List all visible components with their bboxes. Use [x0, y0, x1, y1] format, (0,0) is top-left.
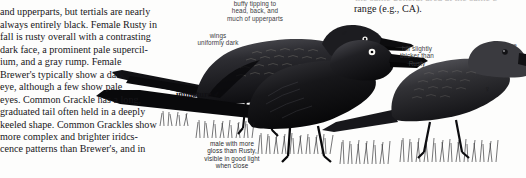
sex-symbol-female: ♀ [484, 84, 491, 94]
body-line: keeled shape. Common Grackles show [0, 119, 142, 131]
body-line: and upperparts, but tertials are nearly [0, 6, 142, 18]
body-line: dark face, a prominent pale supercil- [0, 44, 142, 56]
callout-dark-eye: dark eye [492, 42, 526, 49]
label-immature-male: immature ♂ [176, 90, 220, 99]
body-line: always entirely black. Female Rusty in [0, 19, 142, 31]
callout-wings-uniformly-dark: wings uniformly dark [184, 32, 252, 47]
callout-bill-thicker: bill slightly thicker than Rusty [388, 45, 446, 67]
callout-buffy-tipping: buffy tipping to head, back, and much of… [212, 0, 298, 22]
callout-male-gloss: male with more gloss than Rusty, visible… [186, 140, 278, 170]
body-line: ium, and a gray rump. Female [0, 56, 142, 68]
body-text-column: show buff tipping on breast, head, and u… [0, 0, 142, 178]
page-top-clip-mask [0, 0, 142, 6]
immature-male-bird [112, 25, 414, 136]
body-line: graduated tail often held in a deeply [0, 106, 142, 118]
sex-symbol-adult-male: ♂ [341, 28, 348, 38]
body-line: eye, although a few show pale [0, 81, 142, 93]
immature-text: immature [176, 90, 213, 99]
right-column-clipped-line: the same general area at the same p [355, 0, 526, 1]
body-line: fall is rusty overall with a contrasting [0, 31, 142, 43]
right-column-line: range (e.g., CA). [354, 3, 422, 15]
body-line: more complex and brighter iridcs- [0, 131, 142, 143]
body-line: eyes. Common Grackle has a long, [0, 94, 142, 106]
field-guide-page: show buff tipping on breast, head, and u… [0, 0, 526, 178]
body-line: cence patterns than Brewer's, and in [0, 143, 142, 155]
body-line: Brewer's typically show a dark [0, 69, 142, 81]
male-symbol-immature: ♂ [213, 90, 219, 99]
